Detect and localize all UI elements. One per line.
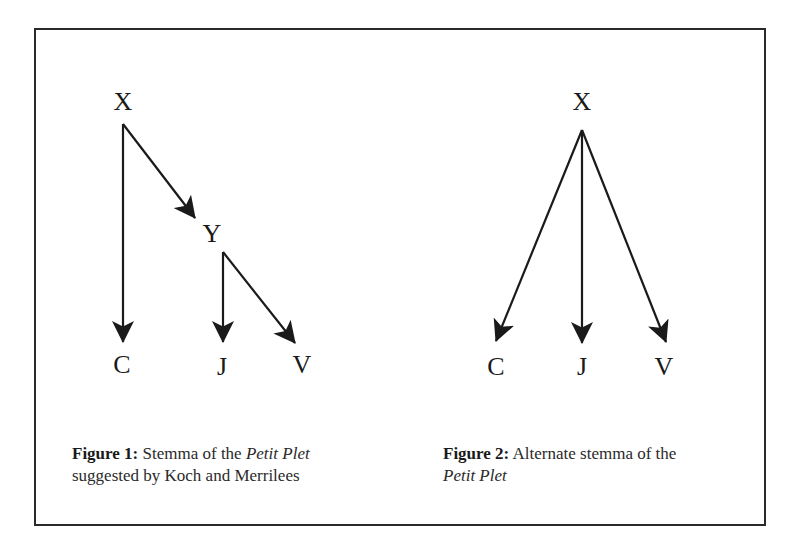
figure-1-stemma: X Y C J V (113, 87, 311, 381)
node-v: V (655, 352, 674, 381)
node-x: X (573, 87, 592, 116)
node-j: J (577, 352, 587, 381)
node-c: C (487, 352, 504, 381)
figure-2-caption: Figure 2: Alternate stemma of the Petit … (443, 443, 763, 487)
caption-text-line-2: suggested by Koch and Merrilees (72, 466, 300, 485)
caption-italic-title: Petit Plet (443, 466, 507, 485)
figure-2-stemma: X C J V (487, 87, 673, 381)
caption-italic-title: Petit Plet (246, 444, 310, 463)
edge-x-to-v (582, 130, 666, 342)
node-v: V (293, 350, 312, 379)
node-x: X (114, 87, 133, 116)
figure-2-label: Figure 2: (443, 444, 509, 463)
figure-1-caption: Figure 1: Stemma of the Petit Plet sugge… (72, 443, 392, 487)
edge-y-to-v (223, 252, 295, 343)
edge-x-to-c (496, 130, 582, 341)
node-y: Y (203, 219, 222, 248)
caption-text: Stemma of the (138, 444, 246, 463)
node-j: J (217, 352, 227, 381)
edge-x-to-y (123, 124, 195, 218)
caption-text: Alternate stemma of the (509, 444, 676, 463)
node-c: C (113, 350, 130, 379)
figure-1-label: Figure 1: (72, 444, 138, 463)
